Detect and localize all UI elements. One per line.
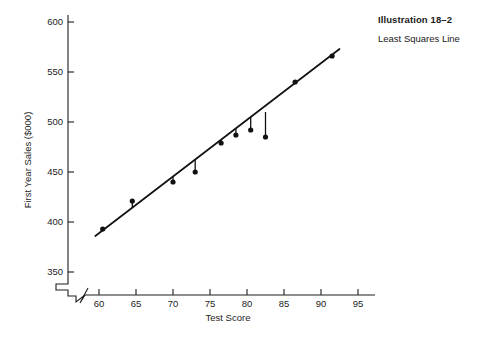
x-axis: 6065707580859095	[85, 289, 375, 309]
data-point	[263, 134, 268, 139]
x-tick-label: 95	[353, 298, 364, 309]
axis-break-symbol	[56, 278, 88, 303]
chart-caption: Illustration 18–2 Least Squares Line	[378, 14, 486, 44]
x-tick-label: 75	[205, 298, 216, 309]
data-point	[130, 198, 135, 203]
y-axis-title: First Year Sales ($000)	[22, 112, 33, 209]
x-tick-label: 85	[279, 298, 290, 309]
scatter-plot-canvas: 350400450500550600 6065707580859095 Test…	[0, 0, 489, 344]
chart-figure: Illustration 18–2 Least Squares Line 350…	[0, 0, 489, 344]
x-tick-label: 70	[168, 298, 179, 309]
data-point	[170, 179, 175, 184]
y-tick-label: 500	[47, 116, 63, 127]
y-tick-label: 350	[47, 266, 63, 277]
data-point	[248, 127, 253, 132]
data-point	[193, 169, 198, 174]
data-point	[293, 79, 298, 84]
x-tick-label: 90	[316, 298, 327, 309]
x-axis-title: Test Score	[206, 312, 251, 323]
y-tick-label: 600	[47, 16, 63, 27]
data-point	[233, 132, 238, 137]
y-tick-label: 450	[47, 166, 63, 177]
data-point	[100, 226, 105, 231]
x-tick-label: 65	[131, 298, 142, 309]
least-squares-line	[95, 49, 339, 236]
y-tick-label: 550	[47, 66, 63, 77]
data-point	[219, 140, 224, 145]
x-tick-label: 60	[94, 298, 105, 309]
caption-title: Illustration 18–2	[378, 14, 486, 25]
y-axis: 350400450500550600	[47, 15, 74, 278]
caption-subtitle: Least Squares Line	[378, 33, 486, 44]
data-point	[330, 53, 335, 58]
y-tick-label: 400	[47, 216, 63, 227]
x-tick-label: 80	[242, 298, 253, 309]
